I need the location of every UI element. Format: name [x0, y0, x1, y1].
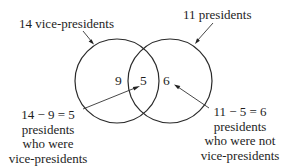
arrow-right-annotation — [174, 85, 209, 109]
right-only-count: 6 — [163, 73, 170, 88]
arrowhead-icon — [89, 39, 94, 44]
right-annotation-line-1: 11 − 5 = 6 — [213, 104, 267, 119]
right-annotation-line-3: who were not — [205, 133, 276, 148]
right-annotation-line-2: presidents — [214, 119, 267, 134]
arrowhead-icon — [133, 86, 140, 90]
arrow-vice-presidents-label — [83, 31, 94, 45]
left-only-count: 9 — [115, 73, 122, 88]
left-annotation-line-4: vice-presidents — [9, 151, 88, 166]
presidents-set-label: 11 presidents — [183, 7, 251, 22]
right-annotation-line-4: vice-presidents — [201, 148, 280, 163]
arrow-presidents-label — [195, 23, 213, 44]
venn-diagram: 14 vice-presidents 11 presidents 9 5 6 1… — [0, 0, 285, 168]
left-annotation-line-2: presidents — [22, 122, 75, 137]
vice-presidents-set-label: 14 vice-presidents — [19, 16, 114, 31]
overlap-count: 5 — [140, 73, 147, 88]
left-annotation-line-3: who were — [23, 136, 74, 151]
arrowhead-icon — [174, 85, 180, 90]
left-annotation-line-1: 14 − 9 = 5 — [21, 107, 75, 122]
left-annotation: 14 − 9 = 5 presidents who were vice-pres… — [9, 107, 88, 166]
right-annotation: 11 − 5 = 6 presidents who were not vice-… — [201, 104, 280, 163]
